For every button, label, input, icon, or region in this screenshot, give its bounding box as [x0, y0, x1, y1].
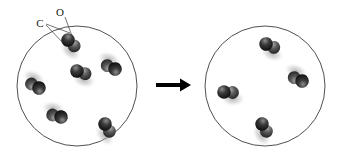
oxygen-label: O — [56, 6, 64, 18]
right-container — [205, 26, 325, 151]
molecule-transition-diagram: O C — [0, 0, 343, 163]
arrow-head — [180, 79, 191, 92]
left-container: O C — [16, 6, 137, 151]
transition-arrow — [156, 79, 191, 92]
carbon-label: C — [36, 17, 43, 29]
